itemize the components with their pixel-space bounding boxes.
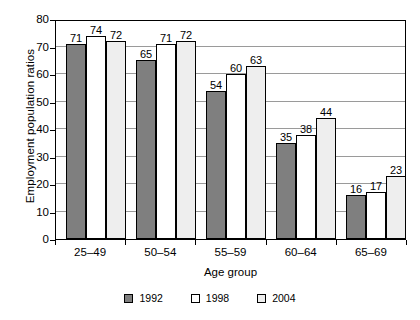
- legend-swatch-icon: [124, 294, 133, 303]
- bar-slot: 74: [86, 21, 106, 239]
- y-axis-tick-mark: [50, 185, 55, 186]
- y-axis-tick-label: 20: [0, 179, 49, 191]
- legend-item[interactable]: 2004: [257, 292, 295, 304]
- bar[interactable]: 17: [366, 192, 386, 239]
- x-axis-tick-mark: [195, 240, 196, 245]
- bar-group: 161723: [336, 21, 406, 239]
- bar-slot: 16: [346, 21, 366, 239]
- bar[interactable]: 65: [136, 60, 156, 239]
- bar[interactable]: 74: [86, 36, 106, 240]
- legend-label: 1992: [139, 292, 162, 304]
- x-axis-tick-label: 60–64: [266, 246, 336, 258]
- x-axis-tick-mark: [406, 240, 407, 245]
- bar-slot: 65: [136, 21, 156, 239]
- bar[interactable]: 60: [226, 74, 246, 239]
- group-spacer: [336, 238, 346, 239]
- x-axis-tick-mark: [266, 240, 267, 245]
- x-axis-tick-mark: [125, 240, 126, 245]
- bar-value-label: 38: [300, 124, 312, 135]
- legend-item[interactable]: 1992: [124, 292, 162, 304]
- bar-value-label: 60: [230, 63, 242, 74]
- bar-value-label: 71: [70, 33, 82, 44]
- x-axis-tick-label: 55–59: [195, 246, 265, 258]
- bar-value-label: 72: [180, 30, 192, 41]
- bar[interactable]: 71: [156, 44, 176, 239]
- bar-chart-figure: Employment population ratios 71747265717…: [0, 0, 420, 320]
- bar-group: 717472: [56, 21, 126, 239]
- legend-label: 1998: [206, 292, 229, 304]
- bar[interactable]: 54: [206, 91, 226, 240]
- y-axis-tick-mark: [50, 103, 55, 104]
- y-axis-tick-mark: [50, 158, 55, 159]
- y-axis-tick-label: 50: [0, 97, 49, 109]
- bar[interactable]: 16: [346, 195, 366, 239]
- y-axis-tick-mark: [50, 20, 55, 21]
- bar[interactable]: 38: [296, 135, 316, 240]
- x-axis-labels: 25–4950–5455–5960–6465–69: [55, 246, 406, 258]
- y-axis-tick-label: 60: [0, 69, 49, 81]
- legend-swatch-icon: [191, 294, 200, 303]
- legend-item[interactable]: 1998: [191, 292, 229, 304]
- bar-value-label: 54: [210, 80, 222, 91]
- bar-value-label: 65: [140, 49, 152, 60]
- bar[interactable]: 23: [386, 176, 406, 239]
- x-axis-tick-mark: [336, 240, 337, 245]
- bar-value-label: 17: [370, 181, 382, 192]
- y-axis-tick-label: 30: [0, 152, 49, 164]
- legend-label: 2004: [272, 292, 295, 304]
- y-axis-tick-mark: [50, 75, 55, 76]
- bar[interactable]: 71: [66, 44, 86, 239]
- group-spacer: [126, 238, 136, 239]
- bar-slot: 71: [156, 21, 176, 239]
- group-spacer: [56, 238, 66, 239]
- bar-slot: 44: [316, 21, 336, 239]
- group-spacer: [196, 238, 206, 239]
- x-axis-tick-label: 25–49: [55, 246, 125, 258]
- bar-value-label: 71: [160, 33, 172, 44]
- y-axis-tick-label: 10: [0, 207, 49, 219]
- bar-group: 657172: [126, 21, 196, 239]
- bar-value-label: 23: [390, 165, 402, 176]
- bar-slot: 35: [276, 21, 296, 239]
- y-axis-tick-mark: [50, 213, 55, 214]
- bar-slot: 38: [296, 21, 316, 239]
- y-axis-tick-label: 0: [0, 234, 49, 246]
- bar-group: 353844: [266, 21, 336, 239]
- y-axis-tick-label: 70: [0, 42, 49, 54]
- x-axis-tick-label: 50–54: [125, 246, 195, 258]
- bar[interactable]: 63: [246, 66, 266, 239]
- y-axis-tick-label: 80: [0, 14, 49, 26]
- bar-slot: 72: [176, 21, 196, 239]
- bar-value-label: 16: [350, 184, 362, 195]
- bar[interactable]: 35: [276, 143, 296, 239]
- x-axis-tick-mark: [55, 240, 56, 245]
- bar-slot: 63: [246, 21, 266, 239]
- chart-legend: 199219982004: [0, 292, 420, 304]
- bar-slot: 54: [206, 21, 226, 239]
- bar-value-label: 63: [250, 55, 262, 66]
- bar-slot: 60: [226, 21, 246, 239]
- bar-value-label: 35: [280, 132, 292, 143]
- y-axis-tick-label: 40: [0, 124, 49, 136]
- legend-swatch-icon: [257, 294, 266, 303]
- y-axis-tick-mark: [50, 48, 55, 49]
- bar[interactable]: 72: [106, 41, 126, 239]
- x-axis-title: Age group: [55, 266, 406, 278]
- plot-area: 717472657172546063353844161723: [55, 20, 406, 240]
- bar-group: 546063: [196, 21, 266, 239]
- y-axis-tick-mark: [50, 130, 55, 131]
- bar-value-label: 72: [110, 30, 122, 41]
- group-spacer: [266, 238, 276, 239]
- bar[interactable]: 72: [176, 41, 196, 239]
- bar[interactable]: 44: [316, 118, 336, 239]
- bar-value-label: 44: [320, 107, 332, 118]
- bar-slot: 17: [366, 21, 386, 239]
- bar-value-label: 74: [90, 25, 102, 36]
- bar-groups: 717472657172546063353844161723: [56, 21, 405, 239]
- bar-slot: 23: [386, 21, 406, 239]
- bar-slot: 71: [66, 21, 86, 239]
- bar-slot: 72: [106, 21, 126, 239]
- x-axis-tick-label: 65–69: [336, 246, 406, 258]
